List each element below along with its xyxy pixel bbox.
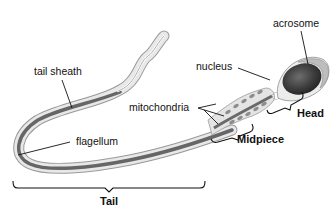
label-tail-sheath: tail sheath [34, 65, 82, 77]
sperm-cell-diagram: tail sheath flagellum mitochondria nucle… [0, 0, 334, 216]
tail [19, 36, 232, 168]
tail-sheath-fill [19, 36, 232, 168]
flagellum-leader [18, 142, 70, 155]
label-midpiece: Midpiece [237, 133, 284, 145]
label-tail: Tail [100, 195, 118, 207]
label-flagellum: flagellum [76, 135, 118, 147]
midpiece [208, 88, 280, 135]
tail-sheath-outer [19, 36, 232, 168]
label-nucleus: nucleus [196, 60, 232, 72]
label-mitochondria: mitochondria [129, 101, 189, 113]
tail-bracket [13, 181, 205, 192]
mitochondria-leader-1 [198, 104, 216, 108]
label-head: Head [297, 107, 324, 119]
nucleus-leader [238, 68, 270, 80]
label-acrosome: acrosome [273, 17, 319, 29]
